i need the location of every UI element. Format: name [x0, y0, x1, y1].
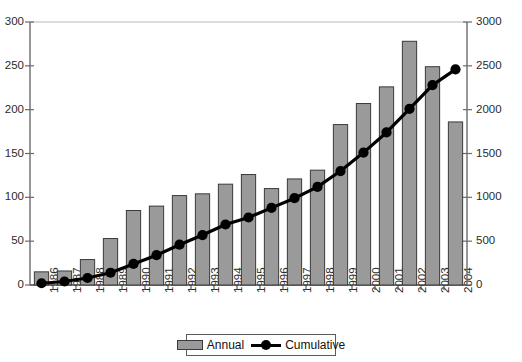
annual-bar	[103, 239, 117, 285]
cumulative-marker	[358, 148, 368, 158]
chart-legend: Annual Cumulative	[186, 334, 336, 356]
cumulative-marker	[243, 212, 253, 222]
annual-bar	[356, 104, 370, 285]
cumulative-marker	[36, 278, 46, 288]
annual-bar	[126, 210, 140, 285]
annual-bar	[241, 175, 255, 285]
cumulative-marker	[427, 80, 437, 90]
cumulative-marker	[128, 259, 138, 269]
annual-bar	[448, 122, 462, 285]
annual-bar	[218, 184, 232, 285]
cumulative-marker	[312, 182, 322, 192]
cumulative-marker	[197, 230, 207, 240]
annual-bar	[402, 41, 416, 285]
annual-bars-series	[34, 41, 462, 285]
cumulative-marker	[174, 240, 184, 250]
legend-swatch-annual	[177, 340, 203, 350]
annual-bar	[333, 125, 347, 285]
cumulative-marker	[220, 219, 230, 229]
cumulative-marker	[335, 166, 345, 176]
legend-label-cumulative: Cumulative	[285, 338, 345, 352]
cumulative-marker	[59, 276, 69, 286]
chart-container: 050100150200250300 050010001500200025003…	[0, 0, 522, 362]
cumulative-marker	[450, 64, 460, 74]
cumulative-marker	[151, 250, 161, 260]
annual-bar	[379, 87, 393, 285]
legend-item-cumulative: Cumulative	[251, 338, 345, 352]
annual-bar	[149, 206, 163, 285]
cumulative-marker	[266, 203, 276, 213]
annual-bar	[425, 67, 439, 285]
cumulative-marker	[289, 193, 299, 203]
cumulative-marker	[82, 273, 92, 283]
plot-area	[0, 0, 522, 362]
legend-label-annual: Annual	[207, 338, 244, 352]
cumulative-marker	[404, 104, 414, 114]
cumulative-marker	[105, 268, 115, 278]
legend-item-annual: Annual	[177, 338, 244, 352]
legend-line-cumulative	[251, 340, 281, 350]
cumulative-marker	[381, 127, 391, 137]
